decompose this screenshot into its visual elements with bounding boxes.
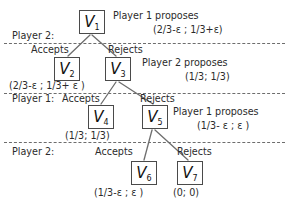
edge-label-accepts-3: Accepts — [95, 147, 133, 158]
edge-label-accepts-2: Accepts — [62, 94, 100, 105]
proposal-3-who: Player 1 proposes — [173, 107, 259, 118]
node-v7[interactable]: V7 — [177, 161, 203, 185]
node-v4[interactable]: V4 — [88, 105, 114, 129]
node-v1[interactable]: V1 — [79, 10, 105, 34]
edge-v1-v2 — [68, 35, 90, 56]
proposal-1-who: Player 1 proposes — [113, 11, 199, 22]
proposal-2-who: Player 2 proposes — [142, 58, 228, 69]
edge-label-rejects-2: Rejects — [140, 94, 175, 105]
edge-v5-v6 — [144, 130, 152, 160]
node-v5[interactable]: V5 — [142, 105, 168, 129]
edge-label-accepts-1: Accepts — [31, 45, 69, 56]
node-v6[interactable]: V6 — [131, 161, 157, 185]
payoff-v2: (2/3-ε ; 1/3+ ε ) — [9, 81, 85, 92]
payoff-v7: (0; 0) — [173, 188, 199, 199]
game-tree-diagram: V1 V2 V3 V4 V5 V6 V7 Player 2: Player 1:… — [0, 0, 289, 211]
stage-separator-3 — [4, 142, 285, 143]
node-v6-label: V6 — [136, 166, 151, 181]
proposal-2-offer: (1/3; 1/3) — [185, 72, 230, 83]
edge-label-rejects-1: Rejects — [108, 45, 143, 56]
stage-label-player-2-top: Player 2: — [12, 31, 54, 42]
payoff-v6: (1/3-ε ; ε ) — [94, 188, 143, 199]
proposal-1-offer: (2/3-ε ; 1/3+ε) — [153, 25, 223, 36]
payoff-v4: (1/3; 1/3) — [65, 131, 110, 142]
stage-label-player-2-bottom: Player 2: — [12, 147, 54, 158]
node-v1-label: V1 — [84, 15, 99, 30]
node-v2-label: V2 — [59, 62, 74, 77]
stage-label-player-1-middle: Player 1: — [12, 94, 54, 105]
proposal-3-offer: (1/3- ε ; ε ) — [197, 121, 249, 132]
node-v5-label: V5 — [147, 110, 162, 125]
node-v2[interactable]: V2 — [54, 57, 80, 81]
node-v3-label: V3 — [110, 62, 125, 77]
node-v7-label: V7 — [182, 166, 197, 181]
node-v3[interactable]: V3 — [105, 57, 131, 81]
edge-label-rejects-3: Rejects — [177, 147, 212, 158]
node-v4-label: V4 — [93, 110, 108, 125]
